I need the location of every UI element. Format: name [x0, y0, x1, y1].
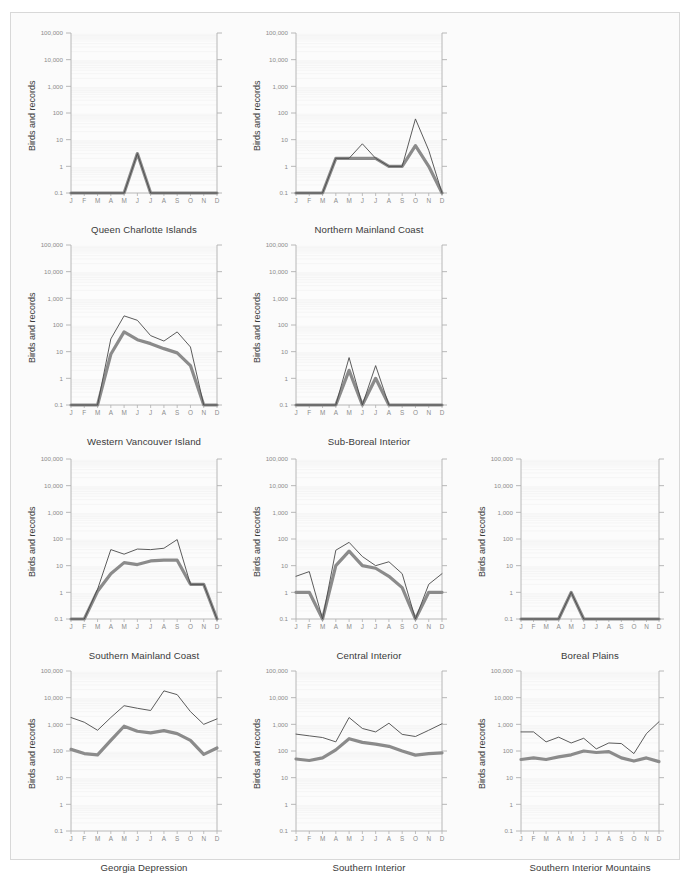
y-tick-label: 10,000 — [44, 268, 63, 275]
x-tick-label: N — [426, 835, 431, 842]
x-tick-label: J — [374, 409, 377, 416]
chart-caption: Boreal Plains — [521, 650, 659, 661]
y-axis-title: Birds and records — [252, 292, 262, 363]
x-tick-label: M — [95, 623, 100, 630]
x-tick-label: M — [121, 197, 126, 204]
y-tick-label: 100,000 — [41, 241, 64, 248]
x-tick-label: J — [149, 623, 152, 630]
x-tick-label: J — [361, 197, 364, 204]
x-tick-label: S — [175, 835, 179, 842]
chart-plot-area: 100,00010,0001,0001001010.1JFMAMJJASOND — [461, 661, 681, 861]
x-tick-label: M — [95, 409, 100, 416]
y-tick-label: 100,000 — [41, 455, 64, 462]
y-tick-label: 1 — [285, 163, 289, 170]
y-tick-label: 0.1 — [504, 615, 513, 622]
x-tick-label: M — [95, 197, 100, 204]
chart-caption: Central Interior — [296, 650, 442, 661]
y-tick-label: 0.1 — [54, 189, 63, 196]
x-tick-label: A — [334, 623, 339, 630]
x-tick-label: O — [413, 623, 418, 630]
y-tick-label: 1 — [285, 375, 289, 382]
y-tick-label: 1,000 — [48, 509, 64, 516]
x-tick-label: J — [136, 835, 139, 842]
y-tick-label: 0.1 — [279, 189, 288, 196]
y-tick-label: 100 — [503, 747, 514, 754]
x-tick-label: F — [82, 835, 86, 842]
y-tick-label: 1,000 — [48, 83, 64, 90]
x-tick-label: D — [215, 835, 220, 842]
y-tick-label: 1 — [285, 589, 289, 596]
y-tick-label: 100,000 — [491, 667, 514, 674]
y-tick-label: 1,000 — [498, 509, 514, 516]
x-tick-label: D — [215, 197, 220, 204]
x-tick-label: D — [440, 623, 445, 630]
x-tick-label: A — [387, 409, 392, 416]
y-axis-title: Birds and records — [252, 718, 262, 789]
x-tick-label: M — [569, 835, 574, 842]
chart-plot-area: 100,00010,0001,0001001010.1JFMAMJJASOND — [236, 23, 464, 223]
x-tick-label: S — [400, 197, 404, 204]
x-tick-label: N — [201, 409, 206, 416]
x-tick-label: J — [136, 623, 139, 630]
y-tick-label: 100 — [53, 321, 64, 328]
x-tick-label: J — [69, 835, 72, 842]
chart-panel: 100,00010,0001,0001001010.1JFMAMJJASONDB… — [461, 449, 681, 667]
x-tick-label: A — [387, 623, 392, 630]
x-tick-label: J — [595, 835, 598, 842]
x-tick-label: M — [320, 623, 325, 630]
x-tick-label: S — [400, 623, 404, 630]
y-axis-title: Birds and records — [252, 80, 262, 151]
x-tick-label: A — [334, 197, 339, 204]
x-tick-label: O — [188, 623, 193, 630]
x-tick-label: F — [82, 623, 86, 630]
x-tick-label: M — [346, 835, 351, 842]
y-tick-label: 10,000 — [494, 482, 513, 489]
x-tick-label: A — [387, 835, 392, 842]
chart-panel: 100,00010,0001,0001001010.1JFMAMJJASONDB… — [11, 449, 239, 667]
y-tick-label: 10 — [281, 136, 288, 143]
x-tick-label: S — [175, 623, 179, 630]
y-tick-label: 10 — [56, 348, 63, 355]
x-tick-label: F — [82, 197, 86, 204]
y-axis-title: Birds and records — [477, 506, 487, 577]
x-tick-label: D — [440, 409, 445, 416]
x-tick-label: F — [307, 197, 311, 204]
x-tick-label: N — [426, 409, 431, 416]
x-tick-label: J — [149, 409, 152, 416]
x-tick-label: J — [69, 623, 72, 630]
y-tick-label: 1 — [60, 801, 64, 808]
x-tick-label: O — [188, 409, 193, 416]
x-tick-label: S — [400, 409, 404, 416]
x-tick-label: M — [320, 409, 325, 416]
chart-plot-area: 100,00010,0001,0001001010.1JFMAMJJASOND — [236, 235, 464, 435]
x-tick-label: M — [346, 623, 351, 630]
y-tick-label: 1,000 — [273, 509, 289, 516]
x-tick-label: J — [582, 623, 585, 630]
x-tick-label: J — [519, 835, 522, 842]
y-tick-label: 0.1 — [279, 827, 288, 834]
x-tick-label: J — [374, 197, 377, 204]
x-tick-label: A — [109, 197, 114, 204]
x-tick-label: F — [307, 623, 311, 630]
x-tick-label: N — [644, 623, 649, 630]
x-tick-label: A — [607, 835, 612, 842]
x-tick-label: A — [387, 197, 392, 204]
y-tick-label: 100 — [278, 747, 289, 754]
x-tick-label: J — [361, 623, 364, 630]
x-tick-label: N — [201, 197, 206, 204]
x-tick-label: A — [162, 409, 167, 416]
x-tick-label: O — [188, 835, 193, 842]
y-tick-label: 0.1 — [279, 401, 288, 408]
x-tick-label: M — [346, 409, 351, 416]
y-tick-label: 1 — [60, 589, 64, 596]
chart-caption: Southern Interior Mountains — [521, 862, 659, 873]
x-tick-label: J — [374, 835, 377, 842]
y-tick-label: 100,000 — [41, 29, 64, 36]
x-tick-label: J — [136, 409, 139, 416]
y-tick-label: 1,000 — [273, 721, 289, 728]
y-axis-title: Birds and records — [27, 292, 37, 363]
y-tick-label: 100,000 — [266, 29, 289, 36]
y-tick-label: 1,000 — [48, 721, 64, 728]
chart-caption: Western Vancouver Island — [71, 436, 217, 447]
x-tick-label: D — [215, 623, 220, 630]
